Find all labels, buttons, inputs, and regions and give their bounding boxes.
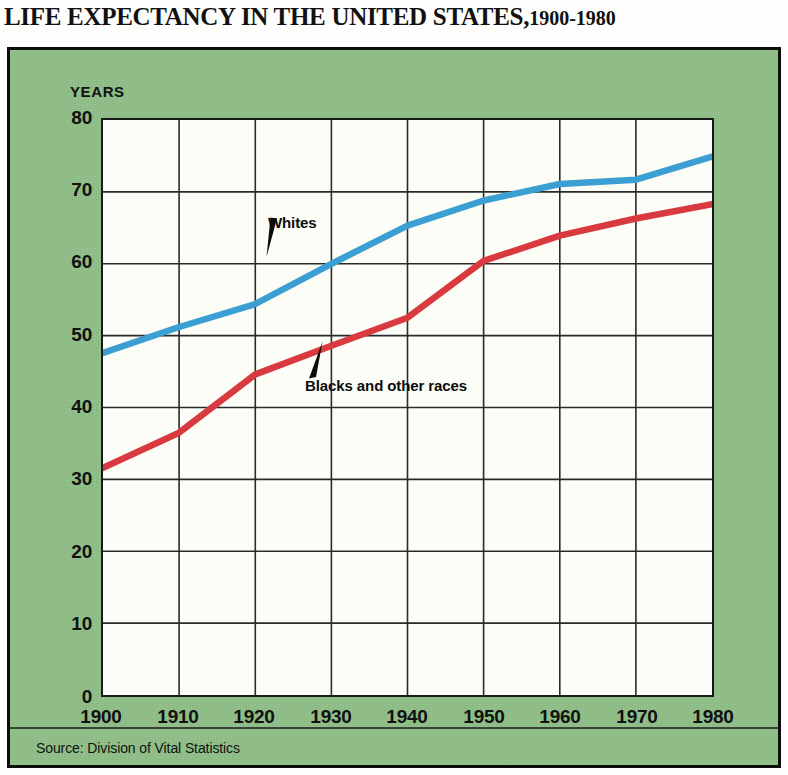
blacks-pointer: [309, 342, 323, 379]
x-tick-1970: 1970: [602, 706, 672, 728]
chart-page: LIFE EXPECTANCY IN THE UNITED STATES,190…: [0, 0, 788, 775]
plot-area: [101, 118, 714, 697]
x-tick-1900: 1900: [66, 706, 136, 728]
series-label-whites: Whites: [268, 214, 317, 231]
x-tick-1920: 1920: [219, 706, 289, 728]
y-tick-30: 30: [50, 468, 92, 490]
x-tick-1930: 1930: [296, 706, 366, 728]
y-tick-20: 20: [50, 541, 92, 563]
source-note: Source: Division of Vital Statistics: [36, 740, 240, 756]
y-tick-10: 10: [50, 613, 92, 635]
page-title: LIFE EXPECTANCY IN THE UNITED STATES,190…: [4, 3, 616, 31]
series-label-blacks: Blacks and other races: [305, 377, 467, 394]
x-tick-1910: 1910: [143, 706, 213, 728]
y-axis-caption: YEARS: [70, 83, 125, 100]
y-tick-50: 50: [50, 324, 92, 346]
x-tick-1950: 1950: [449, 706, 519, 728]
x-tick-1980: 1980: [678, 706, 748, 728]
page-title-main: LIFE EXPECTANCY IN THE UNITED STATES,: [4, 3, 529, 30]
y-tick-70: 70: [50, 179, 92, 201]
y-tick-40: 40: [50, 396, 92, 418]
gridlines: [103, 120, 712, 695]
y-tick-80: 80: [50, 107, 92, 129]
page-title-range: 1900-1980: [529, 7, 616, 29]
y-tick-0: 0: [50, 686, 92, 708]
source-divider: [10, 727, 778, 729]
x-tick-1960: 1960: [525, 706, 595, 728]
title-bar: LIFE EXPECTANCY IN THE UNITED STATES,190…: [0, 0, 788, 47]
chart-svg: [103, 120, 712, 695]
x-tick-1940: 1940: [372, 706, 442, 728]
y-tick-60: 60: [50, 251, 92, 273]
